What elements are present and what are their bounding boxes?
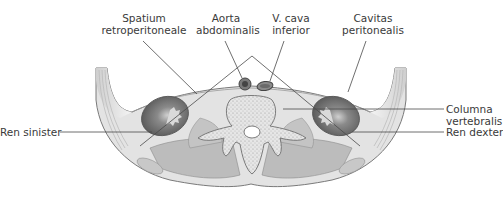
label-aorta-abdominalis: Aorta abdominalis (196, 12, 256, 36)
label-ren-dexter: Ren dexter (446, 126, 503, 138)
label-v-cava-inferior: V. cava inferior (266, 12, 316, 36)
label-ren-sinister: Ren sinister (0, 126, 57, 138)
label-columna-vertebralis: Columna vertebralis (446, 103, 502, 127)
label-spatium-retroperitoneale: Spatium retroperitoneale (100, 12, 188, 36)
aorta (239, 78, 251, 90)
label-cavitas-peritonealis: Cavitas peritonealis (336, 12, 410, 36)
